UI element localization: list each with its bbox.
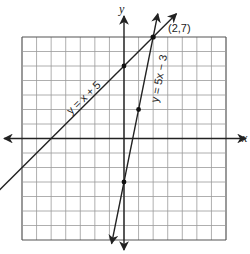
point-marker: [122, 180, 127, 185]
y-axis-label: y: [118, 2, 125, 16]
line-label-1: y = x + 5: [64, 78, 103, 116]
intersection-label: (2,7): [168, 22, 191, 34]
point-marker: [122, 64, 127, 69]
intersection-point: [151, 34, 156, 39]
coordinate-graph: x y (2,7) y = x + 5 y = 5x − 3: [0, 0, 250, 254]
x-axis-label: x: [241, 131, 248, 145]
line-y-equals-5x-minus-3: [112, 14, 158, 244]
line-label-2: y = 5x − 3: [148, 54, 169, 104]
lines: [0, 14, 176, 244]
point-marker: [136, 107, 141, 112]
